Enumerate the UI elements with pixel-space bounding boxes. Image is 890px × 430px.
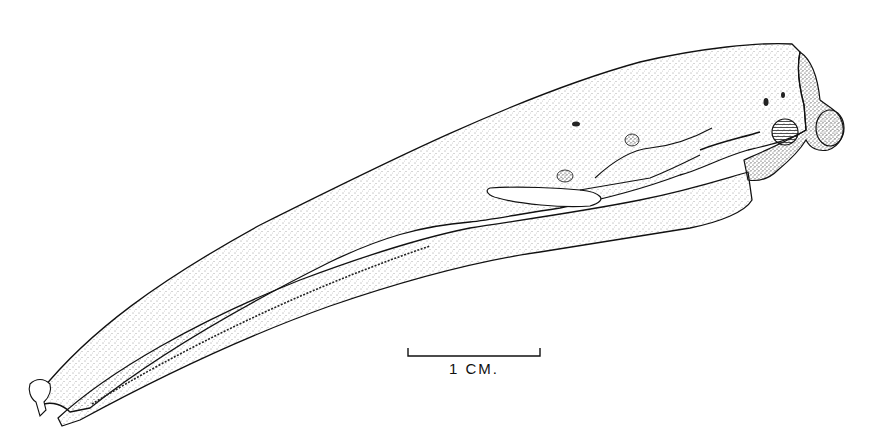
scale-bar <box>408 348 540 356</box>
foramen <box>572 122 580 127</box>
condyle <box>816 110 844 146</box>
foramen <box>764 98 769 106</box>
scale-bar-label: 1 CM. <box>408 360 540 377</box>
hatched-section <box>772 119 798 145</box>
foramen <box>557 170 573 182</box>
foramen <box>781 92 785 98</box>
foramen <box>625 134 639 146</box>
beak-tip <box>29 380 50 417</box>
